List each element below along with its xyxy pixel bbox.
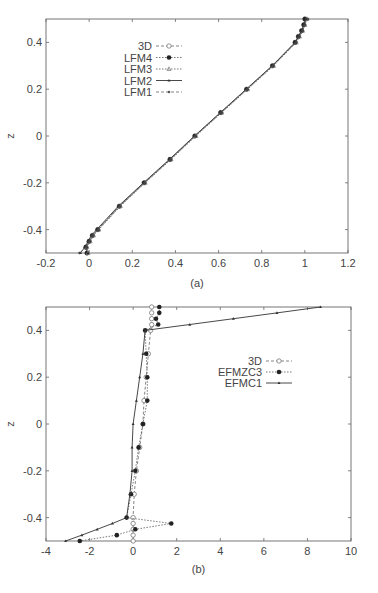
figure: -0.200.20.40.60.811.2-0.4-0.200.20.4z3DL… — [0, 0, 378, 593]
y-tick-label: 0.4 — [27, 324, 42, 336]
chart-panel-a: -0.200.20.40.60.811.2-0.4-0.200.20.4z3DL… — [4, 17, 356, 289]
legend-marker — [277, 370, 282, 375]
data-point — [135, 399, 138, 402]
data-point — [133, 469, 138, 474]
legend-item-lfm2: LFM2 — [124, 75, 182, 87]
data-point — [149, 317, 153, 321]
x-tick-label: 2 — [174, 545, 180, 557]
x-tick-label: 1.2 — [340, 257, 355, 269]
data-point — [136, 445, 141, 450]
x-axis: -0.200.20.40.60.811.2 — [37, 19, 356, 269]
y-tick-label: -0.2 — [23, 465, 42, 477]
legend: 3DEFMZC3EFMC1 — [218, 355, 292, 389]
figure-caption: (b) — [192, 563, 205, 575]
chart-panel-b: -4-20246810-0.4-0.200.20.4z3DEFMZC3EFMC1… — [4, 305, 357, 575]
y-axis: -0.4-0.200.20.4 — [23, 324, 351, 523]
x-tick-label: 0.4 — [168, 257, 183, 269]
x-tick-label: 0 — [86, 257, 92, 269]
x-tick-label: 4 — [217, 545, 223, 557]
y-axis-label: z — [4, 421, 16, 427]
legend-marker — [167, 44, 171, 48]
series-efmc1 — [64, 305, 322, 542]
x-tick-label: 0 — [130, 545, 136, 557]
x-tick-label: 0.6 — [211, 257, 226, 269]
legend-marker — [277, 359, 281, 363]
legend-item-lfm3: LFM3 — [124, 63, 182, 75]
data-point — [169, 521, 174, 526]
data-point — [141, 422, 146, 427]
series-line — [66, 307, 321, 541]
series-lfm3 — [85, 17, 309, 255]
x-tick-label: -0.2 — [37, 257, 56, 269]
x-tick-label: 0.2 — [125, 257, 140, 269]
data-point — [133, 527, 138, 532]
legend-marker — [167, 55, 172, 60]
legend-item-efmc1: EFMC1 — [225, 377, 292, 389]
y-tick-label: -0.2 — [23, 177, 42, 189]
data-point — [115, 533, 120, 538]
data-point — [131, 515, 135, 519]
plot-frame — [46, 307, 351, 541]
y-tick-label: 0 — [36, 418, 42, 430]
y-axis: -0.4-0.200.20.4 — [23, 36, 348, 235]
y-axis-label: z — [4, 133, 16, 139]
legend-label: LFM1 — [124, 86, 152, 98]
data-point — [145, 398, 150, 403]
series-efmzc3 — [77, 305, 173, 544]
legend-item-lfm1: LFM1 — [124, 86, 182, 98]
x-tick-label: 6 — [261, 545, 267, 557]
series-line — [80, 307, 172, 541]
legend-label: EFMC1 — [225, 377, 262, 389]
y-tick-label: 0.4 — [27, 36, 42, 48]
data-point — [131, 446, 134, 449]
data-point — [156, 322, 161, 327]
y-tick-label: -0.4 — [23, 512, 42, 524]
data-point — [138, 376, 141, 379]
data-point — [157, 305, 162, 310]
legend-item-3d: 3D — [138, 40, 182, 52]
data-point — [149, 305, 153, 309]
data-point — [157, 311, 162, 316]
data-point — [145, 375, 150, 380]
data-point — [131, 521, 135, 525]
x-axis: -4-20246810 — [41, 307, 357, 557]
data-point — [131, 533, 135, 537]
data-point — [154, 316, 159, 321]
data-point — [77, 539, 82, 544]
y-tick-label: 0.2 — [27, 371, 42, 383]
data-point — [131, 539, 135, 543]
data-point — [148, 328, 152, 332]
legend-marker — [168, 90, 171, 93]
data-point — [149, 322, 153, 326]
figure-caption: (a) — [190, 277, 203, 289]
x-tick-label: 0.8 — [254, 257, 269, 269]
legend-label: 3D — [138, 40, 152, 52]
legend-label: LFM2 — [124, 75, 152, 87]
y-tick-label: 0.2 — [27, 83, 42, 95]
x-tick-label: 8 — [304, 545, 310, 557]
legend-label: LFM3 — [124, 63, 152, 75]
x-tick-label: -2 — [85, 545, 95, 557]
data-point — [144, 352, 149, 357]
data-point — [149, 311, 153, 315]
legend: 3DLFM4LFM3LFM2LFM1 — [124, 40, 182, 98]
x-tick-label: 1 — [302, 257, 308, 269]
x-tick-label: -4 — [41, 545, 51, 557]
y-tick-label: 0 — [36, 130, 42, 142]
data-point — [132, 422, 135, 425]
x-tick-label: 10 — [345, 545, 357, 557]
legend-label: LFM4 — [124, 52, 152, 64]
y-tick-label: -0.4 — [23, 224, 42, 236]
legend-item-lfm4: LFM4 — [124, 52, 182, 64]
